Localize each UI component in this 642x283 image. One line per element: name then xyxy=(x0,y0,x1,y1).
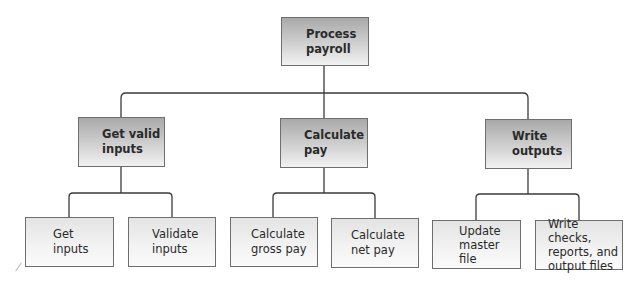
box-label: Calculate pay xyxy=(304,128,364,158)
calculate-pay-box: Calculate pay xyxy=(280,118,368,168)
get-inputs-box: Get inputs xyxy=(25,217,114,267)
get-valid-inputs-box: Get valid inputs xyxy=(78,117,165,167)
box-label: Get valid inputs xyxy=(102,127,160,157)
box-label: Calculate gross pay xyxy=(251,227,307,257)
box-label: Write outputs xyxy=(512,129,562,159)
process-payroll-box: Process payroll xyxy=(281,17,369,66)
box-label: Write checks, reports, and output files xyxy=(548,217,622,273)
calculate-net-pay-box: Calculate net pay xyxy=(331,218,419,268)
box-label: Process payroll xyxy=(306,27,356,57)
box-label: Get inputs xyxy=(53,227,89,257)
write-outputs-box: Write outputs xyxy=(485,119,572,169)
update-master-file-box: Update master file xyxy=(432,220,521,269)
box-label: Update master file xyxy=(459,224,501,266)
box-label: Validate inputs xyxy=(152,227,198,257)
validate-inputs-box: Validate inputs xyxy=(128,217,216,267)
write-checks-reports-box: Write checks, reports, and output files xyxy=(535,220,623,270)
calculate-gross-pay-box: Calculate gross pay xyxy=(230,217,318,267)
box-label: Calculate net pay xyxy=(351,228,405,258)
